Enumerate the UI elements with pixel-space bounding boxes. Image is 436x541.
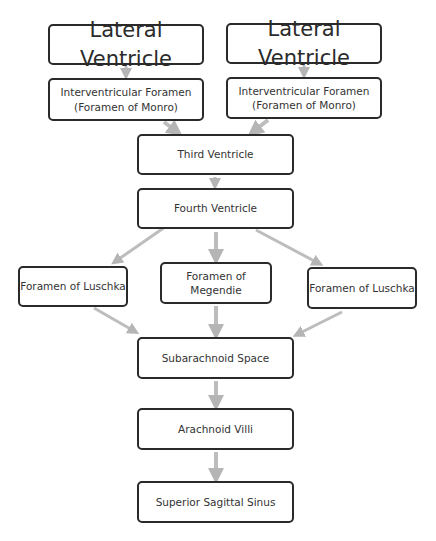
node-label: Third Ventricle [177,147,253,161]
node-label: Fourth Ventricle [174,201,257,215]
node-superior-sagittal-sinus: Superior Sagittal Sinus [137,481,294,523]
node-label: Arachnoid Villi [178,422,253,436]
arrow-if-right-to-third [254,120,268,131]
arrow-luschka-right-to-subarachnoid [298,312,342,334]
node-foramen-of-luschka-left: Foramen of Luschka [18,266,128,307]
arrow-luschka-left-to-subarachnoid [94,308,134,331]
node-label: Foramen of Luschka [20,279,126,293]
node-label-line2: (Foramen of Monro) [74,100,178,114]
node-arachnoid-villi: Arachnoid Villi [137,408,294,450]
node-interventricular-foramen-left: Interventricular Foramen (Foramen of Mon… [48,78,204,121]
node-label-line1: Interventricular Foramen [239,84,370,98]
node-third-ventricle: Third Ventricle [137,134,294,175]
node-lateral-ventricle-left: Lateral Ventricle [48,24,204,65]
node-label: Subarachnoid Space [162,351,270,365]
node-label: Foramen of Luschka [309,281,415,295]
node-label: Lateral Ventricle [228,15,380,72]
node-label: Lateral Ventricle [50,16,202,73]
node-foramen-of-luschka-right: Foramen of Luschka [307,267,417,309]
node-label: Superior Sagittal Sinus [156,495,276,509]
arrow-fourth-to-luschka-left [116,227,165,261]
node-label-line1: Interventricular Foramen [61,85,192,99]
arrow-if-left-to-third [164,122,176,131]
node-interventricular-foramen-right: Interventricular Foramen (Foramen of Mon… [226,77,382,119]
node-subarachnoid-space: Subarachnoid Space [137,337,294,379]
node-label-line2: (Foramen of Monro) [252,98,356,112]
arrow-fourth-to-luschka-right [256,230,318,263]
node-lateral-ventricle-right: Lateral Ventricle [226,23,382,64]
node-label-line2: Megendie [190,283,241,297]
node-foramen-of-megendie: Foramen of Megendie [160,262,272,304]
node-fourth-ventricle: Fourth Ventricle [137,188,294,229]
node-label-line1: Foramen of [186,269,246,283]
